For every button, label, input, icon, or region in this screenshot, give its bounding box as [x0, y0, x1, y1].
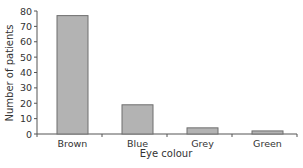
y-tick-label: 0: [26, 129, 32, 140]
bars: [57, 16, 283, 134]
bar-blue: [122, 105, 153, 134]
y-tick-label: 80: [20, 6, 32, 17]
y-tick-label: 50: [20, 52, 32, 63]
bar-chart: 01020304050607080 BrownBlueGreyGreen Num…: [0, 0, 303, 168]
x-axis-label: Eye colour: [140, 148, 193, 159]
x-axis: BrownBlueGreyGreen: [37, 134, 297, 149]
x-tick-label: Green: [253, 138, 282, 149]
bar-green: [252, 131, 283, 134]
y-tick-label: 30: [20, 82, 32, 93]
x-tick-label: Grey: [191, 138, 214, 149]
y-tick-label: 40: [20, 67, 32, 78]
y-tick-label: 10: [20, 113, 32, 124]
bar-grey: [187, 128, 218, 134]
y-axis: 01020304050607080: [20, 6, 37, 140]
y-tick-label: 70: [20, 21, 32, 32]
x-tick-label: Brown: [58, 138, 88, 149]
bar-brown: [57, 16, 88, 134]
y-tick-label: 20: [20, 98, 32, 109]
y-tick-label: 60: [20, 36, 32, 47]
y-axis-label: Number of patients: [4, 25, 15, 122]
